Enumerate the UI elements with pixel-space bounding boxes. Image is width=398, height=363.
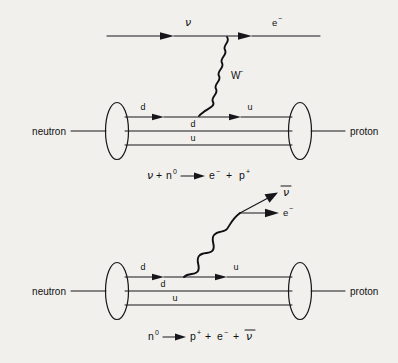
svg-text:+: + [246, 168, 250, 175]
label-quark-u-bottom-upper: u [190, 133, 195, 143]
svg-text:0: 0 [155, 329, 159, 336]
label-neutron-lower: neutron [32, 286, 66, 297]
label-proton-lower: proton [350, 286, 378, 297]
label-neutron-upper: neutron [32, 126, 66, 137]
label-proton-upper: proton [350, 126, 378, 137]
svg-text:+: + [197, 329, 201, 336]
svg-text:e: e [272, 17, 277, 28]
figure-background [0, 0, 398, 363]
label-incoming-neutrino: ν [185, 16, 191, 29]
label-quark-u-out-upper: u [247, 102, 252, 112]
svg-text:+: + [156, 169, 162, 181]
svg-text:ν: ν [283, 186, 289, 199]
svg-text:p: p [239, 169, 245, 181]
label-quark-d-in-lower: d [140, 262, 145, 272]
svg-text:e: e [209, 169, 215, 181]
physics-diagram-figure: ν e − W − neutron proton d u d u [0, 0, 398, 363]
svg-text:p: p [190, 330, 196, 342]
label-quark-d-middle-upper: d [190, 119, 195, 129]
label-quark-u-bottom-lower: u [172, 293, 177, 303]
label-quark-u-out-lower: u [233, 262, 238, 272]
svg-text:ν: ν [147, 169, 153, 182]
label-quark-d-in-upper: d [140, 102, 145, 112]
svg-text:−: − [224, 329, 228, 336]
svg-text:n: n [166, 169, 172, 181]
svg-text:+: + [226, 169, 232, 181]
svg-text:+: + [233, 330, 239, 342]
label-quark-d-middle-lower: d [160, 279, 165, 289]
svg-text:ν: ν [246, 330, 252, 343]
svg-text:n: n [148, 330, 154, 342]
svg-text:e: e [283, 207, 288, 218]
svg-text:−: − [289, 205, 293, 212]
svg-text:e: e [217, 330, 223, 342]
svg-text:+: + [205, 330, 211, 342]
svg-text:0: 0 [173, 168, 177, 175]
svg-text:−: − [278, 15, 282, 22]
svg-text:−: − [239, 68, 243, 75]
svg-text:−: − [216, 168, 220, 175]
